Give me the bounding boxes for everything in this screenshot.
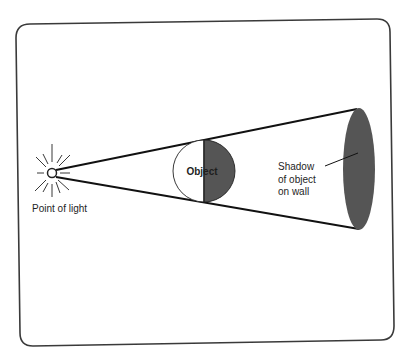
- light-source-bulb: [48, 169, 57, 178]
- object-label: Object: [186, 166, 218, 177]
- light-source-icon: [35, 144, 70, 197]
- shadow-label-line-3: on wall: [278, 186, 309, 197]
- shadow-label-line-2: of object: [278, 174, 316, 185]
- light-source-label: Point of light: [32, 203, 87, 214]
- shadow-on-wall: [343, 108, 375, 230]
- diagram-canvas: Point of light Object Shadow of object o…: [0, 0, 412, 364]
- shadow-label-line-1: Shadow: [278, 161, 315, 172]
